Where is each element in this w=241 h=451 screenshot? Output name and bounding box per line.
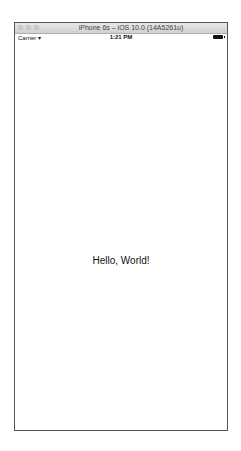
clock: 1:21 PM bbox=[15, 34, 227, 40]
hello-label: Hello, World! bbox=[15, 255, 227, 266]
simulator-window: iPhone 6s – iOS 10.0 (14A5261u) Carrier … bbox=[14, 22, 228, 431]
app-screen: Hello, World! bbox=[15, 43, 227, 430]
battery-icon bbox=[213, 35, 223, 39]
window-title: iPhone 6s – iOS 10.0 (14A5261u) bbox=[15, 23, 227, 33]
status-bar: Carrier ▾ 1:21 PM bbox=[15, 33, 227, 43]
